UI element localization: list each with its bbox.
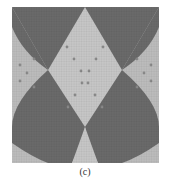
stitch-grid xyxy=(12,7,159,163)
argyle-pattern-figure xyxy=(12,7,159,163)
figure-caption: (c) xyxy=(0,166,170,177)
